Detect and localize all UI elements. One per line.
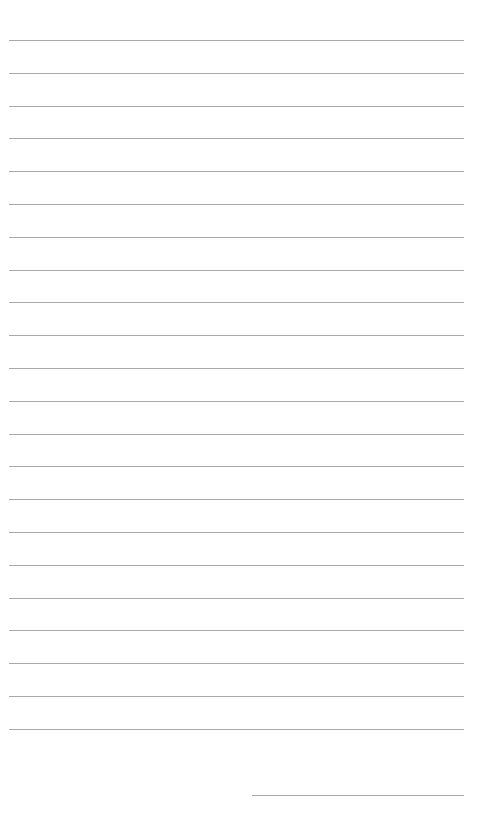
ruled-line <box>9 499 464 500</box>
lined-paper-page <box>0 0 487 833</box>
ruled-line <box>9 335 464 336</box>
ruled-line <box>9 237 464 238</box>
ruled-line <box>9 106 464 107</box>
ruled-line <box>9 532 464 533</box>
ruled-line <box>9 434 464 435</box>
ruled-line <box>9 565 464 566</box>
ruled-line <box>9 73 464 74</box>
ruled-line <box>9 138 464 139</box>
ruled-line <box>9 630 464 631</box>
ruled-line <box>9 171 464 172</box>
ruled-line <box>9 368 464 369</box>
ruled-line <box>9 696 464 697</box>
ruled-line <box>9 598 464 599</box>
ruled-line <box>9 466 464 467</box>
ruled-line <box>9 302 464 303</box>
ruled-line <box>9 663 464 664</box>
signature-line <box>252 795 464 796</box>
ruled-line <box>9 729 464 730</box>
ruled-line <box>9 204 464 205</box>
ruled-line <box>9 40 464 41</box>
ruled-line <box>9 270 464 271</box>
ruled-line <box>9 401 464 402</box>
